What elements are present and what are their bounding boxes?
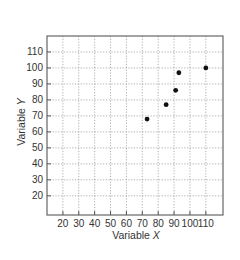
data-points <box>145 66 209 122</box>
x-tick-label: 30 <box>73 218 85 229</box>
x-tick-label: 70 <box>137 218 149 229</box>
plot-area-frame <box>47 36 223 215</box>
x-tick-label: 60 <box>121 218 133 229</box>
x-tick-label: 90 <box>169 218 181 229</box>
x-tick-label: 110 <box>198 218 214 229</box>
x-axis-tick-labels: 2030405060708090100110 <box>57 218 214 229</box>
grid-lines <box>47 36 223 215</box>
x-axis-title: Variable X <box>112 229 161 241</box>
y-tick-label: 40 <box>32 158 44 169</box>
x-tick-label: 100 <box>182 218 199 229</box>
data-point <box>176 70 181 75</box>
x-tick-label: 20 <box>57 218 69 229</box>
y-axis-title: Variable Y <box>15 97 27 146</box>
x-tick-label: 40 <box>89 218 101 229</box>
y-tick-label: 30 <box>32 174 44 185</box>
data-point <box>164 102 169 107</box>
y-tick-label: 100 <box>26 62 43 73</box>
y-tick-label: 60 <box>32 126 44 137</box>
y-tick-label: 70 <box>32 110 44 121</box>
x-tick-label: 80 <box>153 218 165 229</box>
x-tick-label: 50 <box>105 218 117 229</box>
y-tick-label: 90 <box>32 78 44 89</box>
scatter-chart: 2030405060708090100110 20304050607080901… <box>0 0 240 260</box>
y-tick-label: 20 <box>32 190 44 201</box>
y-axis-tick-labels: 2030405060708090100110 <box>26 46 43 201</box>
y-tick-label: 110 <box>27 46 43 57</box>
y-tick-label: 80 <box>32 94 44 105</box>
data-point <box>203 66 208 71</box>
data-point <box>173 88 178 93</box>
data-point <box>145 117 150 122</box>
y-tick-label: 50 <box>32 142 44 153</box>
